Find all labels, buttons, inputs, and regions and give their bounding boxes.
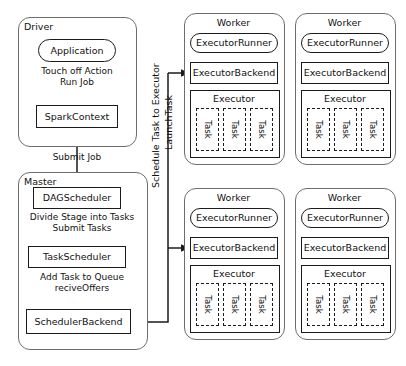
label-launch-task: LaunchTask (163, 95, 174, 150)
worker-top-right-executor-runner[interactable]: ExecutorRunner (301, 33, 389, 53)
task-label: Task (341, 295, 350, 313)
caption-touch-off-action: Touch off Action Run Job (20, 66, 134, 89)
sparkcontext-node[interactable]: SparkContext (36, 105, 118, 128)
master-group-label: Master (24, 176, 84, 187)
worker-bottom-right-task-2[interactable]: Task (361, 283, 384, 326)
task-label: Task (257, 295, 266, 313)
caption-divide-stage: Divide Stage into Tasks Submit Tasks (20, 212, 144, 235)
caption-add-task-to-queue: Add Task to Queue reciveOffers (20, 272, 144, 295)
worker-top-right-executor-backend[interactable]: ExecutorBackend (301, 62, 389, 84)
worker-top-right-task-0[interactable]: Task (307, 108, 330, 151)
worker-bottom-right-label: Worker (295, 192, 394, 203)
worker-top-left-task-1[interactable]: Task (223, 108, 246, 151)
taskscheduler-node[interactable]: TaskScheduler (28, 246, 126, 268)
worker-bottom-right-task-0[interactable]: Task (307, 283, 330, 326)
task-label: Task (314, 120, 323, 138)
task-label: Task (230, 295, 239, 313)
task-label: Task (203, 120, 212, 138)
task-label: Task (368, 120, 377, 138)
diagram-canvas: Driver Application Touch off Action Run … (0, 0, 406, 366)
task-label: Task (341, 120, 350, 138)
schedulerbackend-node[interactable]: SchedulerBackend (26, 309, 131, 334)
worker-bottom-right-executor-backend[interactable]: ExecutorBackend (301, 237, 389, 259)
worker-top-right-task-2[interactable]: Task (361, 108, 384, 151)
worker-bottom-left-executor-label: Executor (190, 268, 278, 279)
worker-top-left-executor-runner[interactable]: ExecutorRunner (190, 33, 278, 53)
task-label: Task (257, 120, 266, 138)
worker-top-left-executor-label: Executor (190, 93, 278, 104)
worker-bottom-left-executor-backend[interactable]: ExecutorBackend (190, 237, 278, 259)
worker-top-right-label: Worker (295, 17, 394, 28)
worker-top-right-task-1[interactable]: Task (334, 108, 357, 151)
task-label: Task (368, 295, 377, 313)
worker-top-left-task-0[interactable]: Task (196, 108, 219, 151)
worker-top-right-executor-label: Executor (301, 93, 389, 104)
worker-top-left-task-2[interactable]: Task (250, 108, 273, 151)
worker-bottom-left-task-0[interactable]: Task (196, 283, 219, 326)
worker-bottom-left-label: Worker (184, 192, 283, 203)
worker-bottom-left-executor-runner[interactable]: ExecutorRunner (190, 208, 278, 228)
label-schedule-task-to-executor: Schedule Task to Executor (150, 63, 161, 188)
worker-bottom-left-task-2[interactable]: Task (250, 283, 273, 326)
task-label: Task (314, 295, 323, 313)
dagscheduler-node[interactable]: DAGScheduler (33, 187, 121, 209)
worker-bottom-right-executor-label: Executor (301, 268, 389, 279)
task-label: Task (203, 295, 212, 313)
task-label: Task (230, 120, 239, 138)
driver-group-label: Driver (24, 21, 84, 32)
caption-submit-job: Submit Job (20, 152, 134, 163)
worker-bottom-right-executor-runner[interactable]: ExecutorRunner (301, 208, 389, 228)
application-node[interactable]: Application (38, 39, 116, 62)
worker-bottom-left-task-1[interactable]: Task (223, 283, 246, 326)
worker-bottom-right-task-1[interactable]: Task (334, 283, 357, 326)
worker-top-left-label: Worker (184, 17, 283, 28)
worker-top-left-executor-backend[interactable]: ExecutorBackend (190, 62, 278, 84)
